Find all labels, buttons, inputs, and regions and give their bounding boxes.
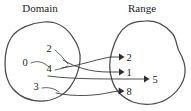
domain-element-4: 4: [46, 63, 52, 74]
range-element-5: 5: [152, 74, 157, 85]
domain-element-2: 2: [46, 43, 51, 54]
arrow-head-to-1: [119, 68, 125, 75]
arrow-head-to-5: [144, 75, 150, 82]
arrow-head-to-8: [119, 87, 125, 94]
leader-domain-3: [42, 88, 59, 92]
range-element-8: 8: [126, 86, 131, 97]
domain-element-3: 3: [33, 81, 38, 92]
diagram-canvas: Domain Range 2 0 4 3 2 1 5 8: [0, 0, 191, 111]
arrow-head-to-2: [119, 53, 125, 60]
domain-title: Domain: [22, 2, 58, 14]
domain-set-outline: [5, 22, 80, 101]
mapping-diagram-figure: Domain Range 2 0 4 3 2 1 5 8: [0, 0, 191, 111]
range-element-2: 2: [126, 52, 131, 63]
range-title: Range: [128, 2, 156, 14]
domain-element-0: 0: [22, 57, 27, 68]
leader-domain-4: [55, 66, 68, 70]
range-element-1: 1: [126, 67, 131, 78]
